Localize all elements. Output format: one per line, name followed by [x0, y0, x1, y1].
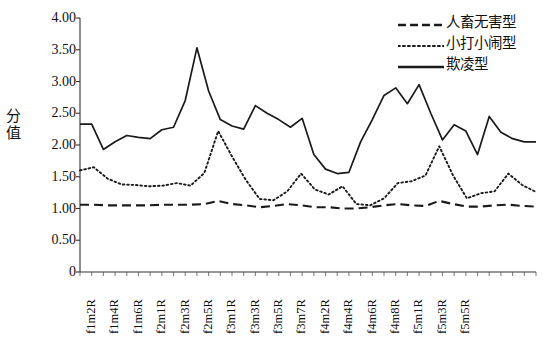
- legend-item: 欺凌型: [398, 54, 556, 75]
- series-line: [80, 201, 536, 209]
- legend-key-dotted: [398, 38, 444, 50]
- series-line: [80, 131, 536, 205]
- legend-label: 小打小闹型: [446, 36, 516, 51]
- legend: 人畜无害型小打小闹型欺凌型: [398, 12, 556, 75]
- legend-label: 欺凌型: [446, 57, 488, 72]
- legend-item: 小打小闹型: [398, 33, 556, 54]
- legend-item: 人畜无害型: [398, 12, 556, 33]
- legend-key-dashed: [398, 17, 444, 29]
- chart-container: 分值 00.501.001.502.002.503.003.504.00 f1m…: [0, 0, 559, 337]
- legend-label: 人畜无害型: [446, 15, 516, 30]
- legend-key-solid: [398, 59, 444, 71]
